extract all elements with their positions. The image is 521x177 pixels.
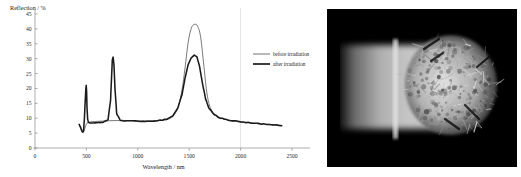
- x-axis-title: Wavelength / nm: [142, 163, 184, 170]
- y-tick-label: 10: [26, 115, 32, 121]
- x-tick-label: 2500: [286, 153, 297, 159]
- series-line-1: [79, 24, 282, 132]
- y-tick-label: 35: [26, 41, 32, 47]
- y-tick-label: 15: [26, 100, 32, 106]
- x-tick-label: 2000: [235, 153, 246, 159]
- y-tick-label: 5: [29, 130, 32, 136]
- vignette-top: [327, 9, 517, 43]
- legend-label-1: before irradiation: [273, 51, 310, 57]
- x-tick-label: 1500: [184, 153, 195, 159]
- micrograph-canvas: [327, 9, 517, 167]
- y-tick-label: 20: [26, 85, 32, 91]
- y-tick-label: 0: [29, 145, 32, 151]
- legend-label-2: after irradiation: [273, 61, 306, 67]
- x-tick-label: 1000: [132, 153, 143, 159]
- vignette-left: [327, 9, 340, 167]
- reflection-spectrum-chart: 05101520253035404505001000150020002500Wa…: [0, 0, 320, 177]
- y-tick-label: 45: [26, 11, 32, 17]
- specimen-seam: [393, 39, 398, 139]
- vignette-right: [507, 9, 517, 167]
- chart-canvas: 05101520253035404505001000150020002500Wa…: [0, 0, 320, 177]
- y-tick-label: 30: [26, 56, 32, 62]
- y-axis-title: Reflection / %: [10, 4, 46, 11]
- figure-root: 05101520253035404505001000150020002500Wa…: [0, 0, 521, 177]
- vignette-bottom: [327, 133, 517, 167]
- y-tick-label: 40: [26, 26, 32, 32]
- y-tick-label: 25: [26, 71, 32, 77]
- specimen-micrograph: [327, 9, 517, 167]
- x-tick-label: 500: [82, 153, 91, 159]
- x-tick-label: 0: [34, 153, 37, 159]
